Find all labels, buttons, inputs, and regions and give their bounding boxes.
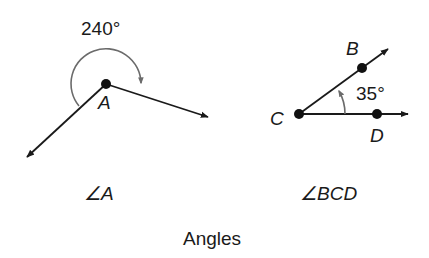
ray-a-left bbox=[27, 84, 106, 157]
figure-caption: Angles bbox=[183, 229, 241, 248]
angle-bcd-arc bbox=[339, 91, 345, 114]
vertex-a-point bbox=[101, 79, 111, 89]
ray-a-right bbox=[106, 84, 208, 117]
angle-bcd-name: ∠BCD bbox=[300, 184, 357, 203]
angle-bcd-measure: 35° bbox=[356, 84, 385, 103]
point-b bbox=[357, 63, 367, 73]
vertex-a-label: A bbox=[98, 93, 111, 112]
angle-a bbox=[27, 49, 208, 157]
angle-bcd bbox=[294, 49, 408, 119]
angle-a-measure: 240° bbox=[81, 19, 120, 38]
angle-a-name: ∠A bbox=[84, 184, 114, 203]
point-d-label: D bbox=[370, 126, 384, 145]
point-b-label: B bbox=[346, 39, 359, 58]
point-d bbox=[372, 109, 382, 119]
angles-diagram bbox=[0, 0, 429, 258]
vertex-c-label: C bbox=[270, 109, 284, 128]
vertex-c-point bbox=[294, 109, 304, 119]
